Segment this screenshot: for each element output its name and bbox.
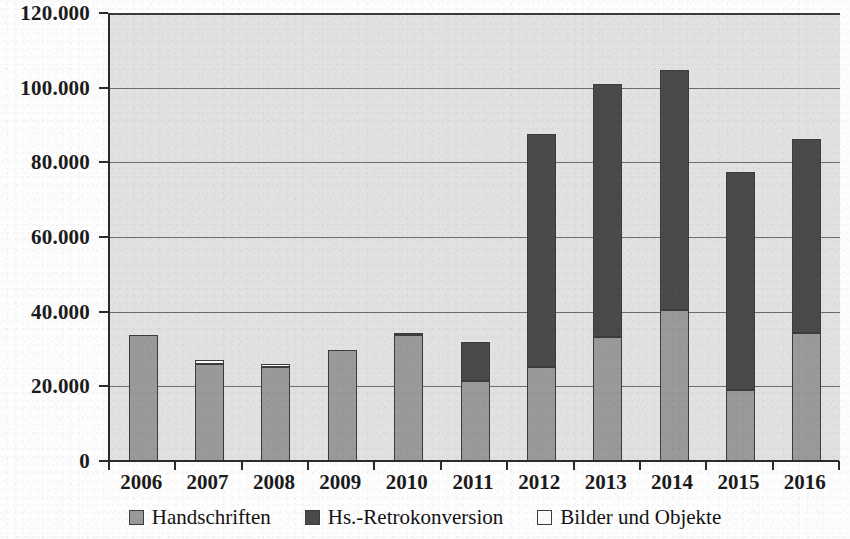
legend-label: Handschriften bbox=[152, 505, 271, 530]
bar-segment bbox=[461, 342, 490, 382]
x-tick-mark bbox=[241, 461, 243, 470]
bar-column-2008 bbox=[261, 13, 290, 461]
x-tick-label: 2016 bbox=[784, 470, 826, 495]
bars-layer bbox=[110, 13, 840, 461]
x-tick-mark bbox=[838, 461, 840, 470]
bar-segment bbox=[129, 335, 158, 461]
x-tick-mark bbox=[573, 461, 575, 470]
x-tick-mark bbox=[440, 461, 442, 470]
bar-column-2015 bbox=[726, 13, 755, 461]
x-tick-mark bbox=[639, 461, 641, 470]
bar-segment bbox=[792, 139, 821, 333]
bar-column-2010 bbox=[394, 13, 423, 461]
bar-segment bbox=[394, 335, 423, 461]
x-tick-label: 2011 bbox=[453, 470, 494, 495]
x-tick-label: 2014 bbox=[651, 470, 693, 495]
bar-segment bbox=[792, 333, 821, 461]
x-tick-mark bbox=[506, 461, 508, 470]
bar-column-2014 bbox=[660, 13, 689, 461]
legend-label: Bilder und Objekte bbox=[560, 505, 721, 530]
y-tick-mark bbox=[99, 87, 108, 89]
bar-segment bbox=[195, 364, 224, 461]
y-tick-mark bbox=[99, 385, 108, 387]
x-tick-label: 2012 bbox=[518, 470, 560, 495]
bar-column-2009 bbox=[328, 13, 357, 461]
y-tick-label: 20.000 bbox=[31, 374, 90, 399]
x-axis-line bbox=[99, 460, 839, 462]
bar-segment bbox=[527, 367, 556, 461]
legend-item[interactable]: Hs.-Retrokonversion bbox=[305, 505, 504, 530]
y-tick-mark bbox=[99, 311, 108, 313]
chart-legend: HandschriftenHs.-RetrokonversionBilder u… bbox=[0, 505, 850, 530]
bar-column-2006 bbox=[129, 13, 158, 461]
legend-item[interactable]: Handschriften bbox=[129, 505, 271, 530]
y-tick-label: 100.000 bbox=[20, 75, 90, 100]
bar-segment bbox=[726, 390, 755, 461]
bar-column-2012 bbox=[527, 13, 556, 461]
x-tick-mark bbox=[108, 461, 110, 470]
bar-segment bbox=[660, 70, 689, 310]
bar-column-2016 bbox=[792, 13, 821, 461]
chart-container: 020.00040.00060.00080.000100.000120.000 … bbox=[0, 0, 850, 539]
legend-item[interactable]: Bilder und Objekte bbox=[537, 505, 721, 530]
bar-segment bbox=[461, 381, 490, 461]
y-tick-label: 60.000 bbox=[31, 225, 90, 250]
x-tick-mark bbox=[772, 461, 774, 470]
bar-column-2007 bbox=[195, 13, 224, 461]
bar-segment bbox=[660, 310, 689, 461]
legend-swatch-icon bbox=[537, 510, 552, 525]
y-tick-label: 40.000 bbox=[31, 299, 90, 324]
x-tick-label: 2006 bbox=[120, 470, 162, 495]
x-tick-label: 2013 bbox=[585, 470, 627, 495]
x-tick-label: 2008 bbox=[253, 470, 295, 495]
y-tick-mark bbox=[99, 12, 108, 14]
y-axis: 020.00040.00060.00080.000100.000120.000 bbox=[0, 0, 100, 480]
bar-segment bbox=[328, 350, 357, 461]
x-tick-label: 2007 bbox=[187, 470, 229, 495]
y-tick-label: 80.000 bbox=[31, 150, 90, 175]
x-tick-mark bbox=[705, 461, 707, 470]
x-tick-mark bbox=[307, 461, 309, 470]
y-tick-mark bbox=[99, 161, 108, 163]
y-tick-mark bbox=[99, 236, 108, 238]
bar-segment bbox=[726, 172, 755, 390]
bar-segment bbox=[593, 337, 622, 461]
bar-column-2013 bbox=[593, 13, 622, 461]
bar-segment bbox=[593, 84, 622, 337]
x-tick-mark bbox=[373, 461, 375, 470]
x-tick-label: 2015 bbox=[717, 470, 759, 495]
bar-segment bbox=[261, 367, 290, 461]
legend-swatch-icon bbox=[129, 510, 144, 525]
x-tick-label: 2009 bbox=[319, 470, 361, 495]
x-tick-mark bbox=[174, 461, 176, 470]
x-tick-label: 2010 bbox=[386, 470, 428, 495]
bar-column-2011 bbox=[461, 13, 490, 461]
plot-area bbox=[108, 13, 840, 461]
y-tick-label: 120.000 bbox=[20, 1, 90, 26]
legend-swatch-icon bbox=[305, 510, 320, 525]
bar-segment bbox=[527, 134, 556, 367]
legend-label: Hs.-Retrokonversion bbox=[328, 505, 504, 530]
x-axis-labels: 2006200720082009201020112012201320142015… bbox=[0, 470, 850, 500]
